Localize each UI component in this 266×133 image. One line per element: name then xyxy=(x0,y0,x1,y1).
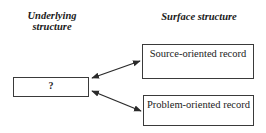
arrow-unknown-to-source xyxy=(92,61,140,78)
arrow-unknown-to-problem xyxy=(92,91,141,111)
connector-arrows xyxy=(0,0,266,133)
